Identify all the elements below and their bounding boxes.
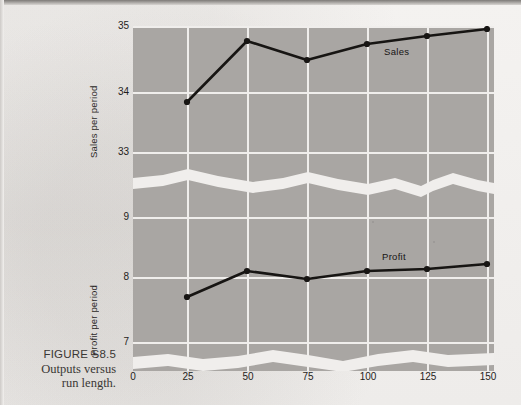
profit-point-75 <box>304 276 310 282</box>
x-axis-tick-labels: 0 25 50 75 100 125 150 <box>0 371 521 387</box>
y-axis-tick-labels: 35 34 33 9 8 7 <box>101 0 129 405</box>
xtick-100: 100 <box>353 371 383 382</box>
sales-point-25 <box>184 99 190 105</box>
sales-line <box>187 29 487 102</box>
ytick-sales-33: 33 <box>103 146 129 157</box>
profit-point-125 <box>424 266 430 272</box>
profit-series-label: Profit <box>382 251 406 262</box>
xtick-150: 150 <box>473 371 503 382</box>
profit-point-150 <box>484 261 490 267</box>
sales-point-50 <box>244 38 250 44</box>
xtick-75: 75 <box>293 371 323 382</box>
profit-point-50 <box>244 268 250 274</box>
xtick-125: 125 <box>413 371 443 382</box>
figure-root: FIGURE S8.5 Outputs versus run length. S… <box>0 0 521 405</box>
sales-series-label: Sales <box>384 46 409 57</box>
scan-speckle <box>433 241 435 243</box>
sales-point-75 <box>304 57 310 63</box>
ytick-sales-35: 35 <box>103 20 129 31</box>
sales-point-100 <box>364 41 370 47</box>
plot-area: Sales Profit <box>133 26 494 371</box>
ytick-profit-7: 7 <box>103 336 129 347</box>
profit-point-100 <box>364 268 370 274</box>
profit-point-25 <box>184 294 190 300</box>
sales-y-axis-title: Sales per period <box>88 36 99 158</box>
scan-speckle <box>372 221 374 223</box>
xtick-50: 50 <box>233 371 263 382</box>
sales-point-150 <box>484 26 490 32</box>
ytick-profit-9: 9 <box>103 211 129 222</box>
profit-y-axis-title: Profit per period <box>88 234 99 356</box>
xtick-25: 25 <box>173 371 203 382</box>
sales-point-125 <box>424 33 430 39</box>
profit-line <box>187 264 487 297</box>
figure-caption-number: FIGURE S8.5 <box>4 348 116 362</box>
ytick-sales-34: 34 <box>103 86 129 97</box>
series-layer <box>133 26 494 371</box>
sales-data-points <box>184 26 490 105</box>
xtick-0: 0 <box>118 371 148 382</box>
ytick-profit-8: 8 <box>103 271 129 282</box>
